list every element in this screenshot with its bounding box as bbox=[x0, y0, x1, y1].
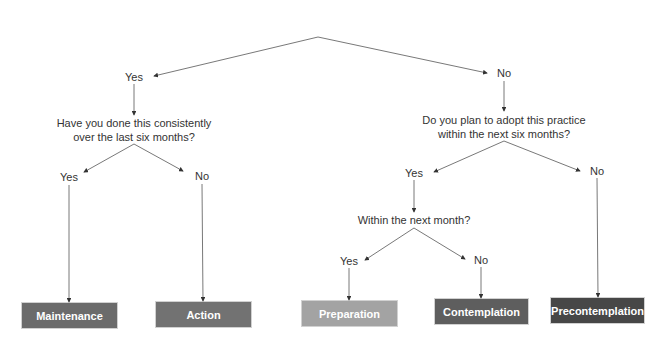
question-line: within the next six months? bbox=[422, 127, 585, 141]
edge-root-yes bbox=[154, 37, 318, 76]
outcome-action: Action bbox=[156, 302, 251, 327]
question-line: Do you plan to adopt this practice bbox=[422, 113, 585, 127]
edge-q1-yes bbox=[84, 144, 134, 172]
outcome-precontemplation: Precontemplation bbox=[551, 298, 644, 323]
outcome-preparation: Preparation bbox=[302, 301, 397, 326]
question-consistency: Have you done this consistently over the… bbox=[57, 116, 212, 144]
edge-no-precontemplation bbox=[597, 178, 598, 297]
branch-label-no: No bbox=[195, 169, 209, 183]
question-line: Have you done this consistently bbox=[57, 116, 212, 130]
branch-label-no: No bbox=[497, 66, 511, 80]
branch-label-no: No bbox=[590, 164, 604, 178]
edge-sub-yes bbox=[365, 228, 414, 260]
edge-q2-no bbox=[504, 141, 580, 171]
outcome-maintenance: Maintenance bbox=[22, 303, 117, 328]
edge-no-action bbox=[202, 184, 203, 301]
branch-label-yes: Yes bbox=[125, 70, 143, 84]
edge-sub-no bbox=[414, 228, 465, 259]
branch-label-yes: Yes bbox=[405, 166, 423, 180]
branch-label-yes: Yes bbox=[340, 254, 358, 268]
outcome-contemplation: Contemplation bbox=[435, 299, 528, 324]
branch-label-no: No bbox=[474, 253, 488, 267]
edge-q1-no bbox=[134, 144, 183, 171]
branch-label-yes: Yes bbox=[60, 170, 78, 184]
edge-q2-yes bbox=[434, 141, 504, 172]
question-next-month: Within the next month? bbox=[358, 213, 471, 227]
question-line: over the last six months? bbox=[57, 130, 212, 144]
edge-root-no bbox=[318, 37, 487, 73]
flow-edges bbox=[0, 0, 662, 342]
question-plan: Do you plan to adopt this practice withi… bbox=[422, 113, 585, 141]
